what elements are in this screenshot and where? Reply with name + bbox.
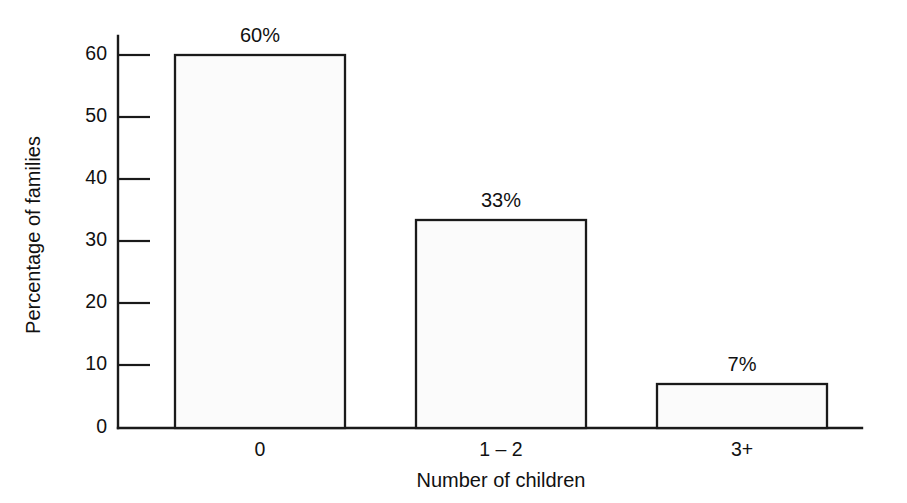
y-tick-label-40: 40 (85, 166, 107, 188)
value-label-bar-1-2: 33% (481, 189, 521, 211)
value-label-bar-3plus: 7% (728, 353, 757, 375)
y-tick-label-50: 50 (85, 104, 107, 126)
x-axis-title: Number of children (417, 469, 586, 491)
y-axis-ticks (118, 55, 150, 365)
y-axis-tick-labels: 60 50 40 30 20 10 0 (85, 42, 107, 437)
value-label-bar-0: 60% (240, 24, 280, 46)
bar-3plus-children[interactable] (657, 384, 827, 428)
x-tick-label-1-2: 1 – 2 (479, 438, 522, 460)
bar-1-2-children[interactable] (416, 220, 586, 428)
y-tick-label-0: 0 (96, 415, 107, 437)
y-tick-label-60: 60 (85, 42, 107, 64)
x-tick-label-3plus: 3+ (731, 438, 753, 460)
bar-0-children[interactable] (175, 55, 345, 428)
y-tick-label-30: 30 (85, 228, 107, 250)
y-tick-label-10: 10 (85, 352, 107, 374)
bar-chart-figure: 60 50 40 30 20 10 0 60% 33% 7% 0 1 – 2 3… (0, 0, 907, 503)
x-tick-label-0: 0 (255, 438, 266, 460)
y-axis-title: Percentage of families (22, 136, 44, 334)
y-tick-label-20: 20 (85, 290, 107, 312)
x-axis-tick-labels: 0 1 – 2 3+ (255, 438, 754, 460)
chart-canvas: 60 50 40 30 20 10 0 60% 33% 7% 0 1 – 2 3… (0, 0, 907, 503)
